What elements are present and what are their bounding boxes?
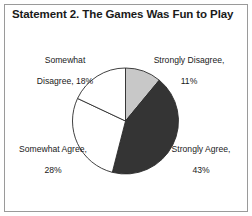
pie-label-somewhat-agree-line1: Somewhat Agree,	[6, 144, 100, 155]
pie-label-somewhat-agree-line2: 28%	[6, 165, 100, 176]
pie-label-somewhat-disagree: Somewhat Disagree, 18%	[26, 44, 104, 97]
chart-container: Statement 2. The Games Was Fun to Play S…	[0, 0, 252, 216]
pie-label-somewhat-disagree-line1: Somewhat	[26, 55, 104, 66]
pie-label-strongly-agree-line1: Strongly Agree,	[156, 144, 246, 155]
pie-label-strongly-disagree-line1: Strongly Disagree,	[140, 55, 238, 66]
pie-label-strongly-agree: Strongly Agree, 43%	[156, 133, 246, 186]
pie-label-somewhat-disagree-line2: Disagree, 18%	[26, 76, 104, 87]
pie-label-somewhat-agree: Somewhat Agree, 28%	[6, 133, 100, 186]
pie-label-strongly-disagree: Strongly Disagree, 11%	[140, 44, 238, 97]
pie-label-strongly-agree-line2: 43%	[156, 165, 246, 176]
pie-label-strongly-disagree-line2: 11%	[140, 76, 238, 87]
